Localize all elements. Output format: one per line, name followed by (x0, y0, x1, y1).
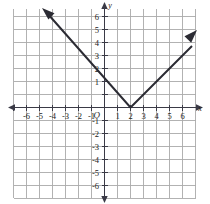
y-tick-label: -6 (92, 181, 99, 191)
y-tick-label: -5 (92, 168, 99, 178)
y-axis-label: y (107, 1, 112, 10)
x-tick-label: 2 (128, 111, 132, 121)
origin-label: O (94, 110, 101, 120)
x-tick-label: -6 (23, 111, 30, 121)
y-tick-label: -4 (92, 155, 100, 165)
coordinate-plane-graph: -6 -5 -4 -3 -2 -1 1 2 3 4 5 6 6 5 4 3 2 … (0, 0, 210, 204)
x-axis-label: x (197, 104, 202, 113)
x-tick-label: -4 (49, 111, 57, 121)
x-tick-label: 5 (167, 111, 171, 121)
y-tick-label: -3 (92, 142, 99, 152)
x-tick-label: -3 (62, 111, 69, 121)
y-tick-label: 1 (95, 77, 99, 87)
x-tick-label: 6 (180, 111, 184, 121)
x-tick-label: 3 (141, 111, 145, 121)
x-tick-label: -2 (75, 111, 82, 121)
y-tick-label: 3 (95, 51, 99, 61)
y-tick-label: 5 (95, 25, 99, 35)
y-tick-label: -2 (92, 129, 99, 139)
graph-svg: -6 -5 -4 -3 -2 -1 1 2 3 4 5 6 6 5 4 3 2 … (0, 0, 210, 204)
x-tick-label: 1 (115, 111, 119, 121)
y-tick-label: 6 (95, 12, 99, 22)
x-tick-label: -5 (36, 111, 43, 121)
